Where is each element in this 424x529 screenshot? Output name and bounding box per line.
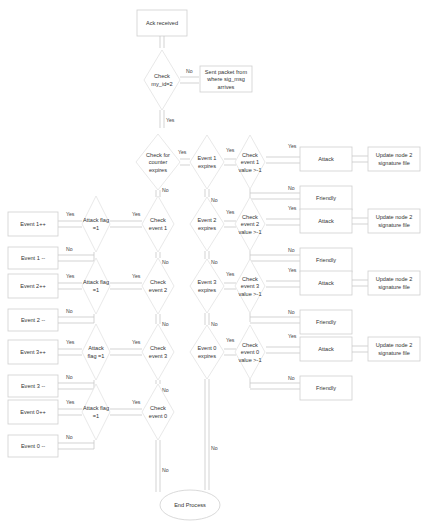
attack-box-1-label: Attack [318,218,334,224]
attack-flag-decision-2-label: Attack [88,345,104,351]
friendly-box-3-label: Friendly [316,385,336,391]
attack-flag-decision-1-label: =1 [93,287,99,293]
branch-label: No [162,321,169,327]
check-event-value-0-label: Check [242,152,258,158]
attack-flag-decision-0-label: =1 [93,225,99,231]
branch-label: No [162,467,169,473]
branch-label: No [288,247,295,253]
event-expires-1-label: Event 2 [198,217,217,223]
end-process-label: End Process [174,502,206,508]
attack-flag-decision-2-label: flag =1 [88,353,105,359]
check-event-value-0-label: value >-1 [238,167,261,173]
branch-label: Yes [66,273,75,279]
branch-label: Yes [288,267,297,273]
event-expires-1-label: expires [198,225,216,231]
event-expires-0-label: Event 1 [198,155,217,161]
branch-label: Yes [226,209,235,215]
attack-box-2-label: Attack [318,280,334,286]
check-event-value-3-label: value >-1 [238,357,261,363]
branch-label: Yes [66,339,75,345]
event-dec-box-0-label: Event 1 -- [21,255,45,261]
branch-label: Yes [178,149,187,155]
event-inc-box-0-label: Event 1++ [20,221,46,227]
branch-label: Yes [288,333,297,339]
branch-label: No [288,375,295,381]
check-event-3-label: Check [150,405,166,411]
update-signature-box-0-label: Update node 2 [376,152,413,158]
check-event-value-3-label: Check [242,342,258,348]
start-box-label: Ack received [146,20,178,26]
event-inc-box-3-label: Event 0++ [20,409,46,415]
flowchart: Ack receivedCheckmy_id=2NoSent packet fr… [0,0,424,529]
event-dec-box-3-label: Event 0 -- [21,443,45,449]
branch-label: No [66,308,73,314]
branch-label: Yes [66,211,75,217]
check-event-2-label: Check [150,345,166,351]
check-counter-decision-label: counter [149,159,168,165]
check-event-0-label: Check [150,217,166,223]
update-signature-box-3-label: Update node 2 [376,342,413,348]
branch-label: No [66,434,73,440]
attack-flag-decision-0-label: Attack flag [83,217,109,223]
sent-packet-box-label: arrives [218,84,235,90]
event-dec-box-1-label: Event 2 -- [21,317,45,323]
check-event-value-2-label: event 3 [241,283,259,289]
check-event-value-1-label: event 2 [241,221,259,227]
update-signature-box-2-label: signature file [378,284,410,290]
attack-box-0-label: Attack [318,156,334,162]
check-event-1-label: Check [150,279,166,285]
attack-box-3-label: Attack [318,346,334,352]
branch-label: No [211,445,218,451]
attack-flag-decision-3-label: =1 [93,413,99,419]
update-signature-box-3-label: signature file [378,350,410,356]
branch-label: No [211,197,218,203]
check-event-value-1-label: Check [242,214,258,220]
event-dec-box-2-label: Event 3 -- [21,383,45,389]
branch-label: No [211,321,218,327]
sent-packet-box-label: where sig_msg [206,76,245,82]
branch-label: Yes [132,211,141,217]
branch-label: Yes [132,339,141,345]
friendly-box-0-label: Friendly [316,195,336,201]
branch-label: Yes [226,271,235,277]
branch-label: No [162,259,169,265]
check-event-value-1-label: value >-1 [238,229,261,235]
event-inc-box-1-label: Event 2++ [20,283,46,289]
event-inc-box-2-label: Event 3++ [20,349,46,355]
branch-label: Yes [226,337,235,343]
event-expires-2-label: Event 3 [198,279,217,285]
event-expires-3-label: Event 0 [198,345,217,351]
branch-label: Yes [166,117,175,123]
branch-label: No [162,187,169,193]
check-event-value-2-label: Check [242,276,258,282]
event-expires-2-label: expires [198,287,216,293]
check-id-decision-label: my_id=2 [151,81,172,87]
check-counter-decision-label: Check for [146,152,170,158]
check-event-2-label: event 3 [149,353,167,359]
sent-packet-box-label: Sent packet from [205,69,248,75]
check-event-0-label: event 1 [149,225,167,231]
branch-label: Yes [132,273,141,279]
branch-label: Yes [132,399,141,405]
check-event-1-label: event 2 [149,287,167,293]
branch-label: No [211,259,218,265]
branch-label: Yes [66,399,75,405]
branch-label: Yes [288,205,297,211]
friendly-box-1-label: Friendly [316,257,336,263]
check-counter-decision-label: expires [149,167,167,173]
check-event-value-0-label: event 1 [241,159,259,165]
branch-label: No [288,309,295,315]
attack-flag-decision-3-label: Attack flag [83,405,109,411]
branch-label: No [66,374,73,380]
update-signature-box-0-label: signature file [378,160,410,166]
branch-label: No [288,185,295,191]
branch-label: No [66,246,73,252]
branch-label: Yes [288,143,297,149]
update-signature-box-2-label: Update node 2 [376,276,413,282]
check-event-value-2-label: value >-1 [238,291,261,297]
event-expires-3-label: expires [198,353,216,359]
attack-flag-decision-1-label: Attack flag [83,279,109,285]
branch-label: Yes [226,147,235,153]
check-event-3-label: event 0 [149,413,167,419]
update-signature-box-1-label: signature file [378,222,410,228]
